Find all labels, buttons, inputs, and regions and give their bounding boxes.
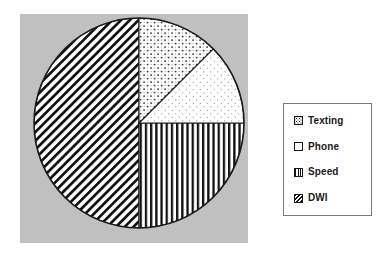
legend-item-phone[interactable]: Phone	[294, 136, 371, 158]
legend-item-texting[interactable]: Texting	[294, 110, 371, 132]
legend-swatch-phone-icon	[294, 142, 303, 151]
legend-label-dwi: DWI	[308, 193, 328, 203]
pie-chart-svg	[20, 14, 248, 243]
legend-item-dwi[interactable]: DWI	[294, 187, 371, 209]
pie-chart-panel	[20, 14, 248, 243]
pie-chart-figure: Texting Phone Speed DWI	[0, 0, 382, 259]
legend-label-texting: Texting	[308, 116, 344, 126]
legend-swatch-texting-icon	[294, 116, 303, 125]
legend-swatch-dwi-icon	[294, 194, 303, 203]
legend-swatch-speed-icon	[294, 168, 303, 177]
legend-item-speed[interactable]: Speed	[294, 161, 371, 183]
legend-label-phone: Phone	[308, 142, 339, 152]
legend-label-speed: Speed	[308, 167, 339, 177]
chart-legend: Texting Phone Speed DWI	[283, 103, 372, 216]
